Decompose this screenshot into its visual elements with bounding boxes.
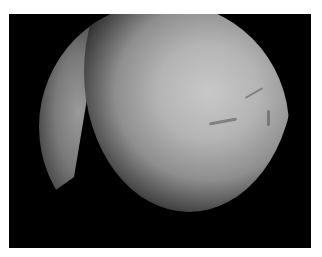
image-frame — [9, 14, 311, 248]
scope-field-of-view — [39, 14, 289, 248]
vessel-marking — [267, 110, 270, 126]
